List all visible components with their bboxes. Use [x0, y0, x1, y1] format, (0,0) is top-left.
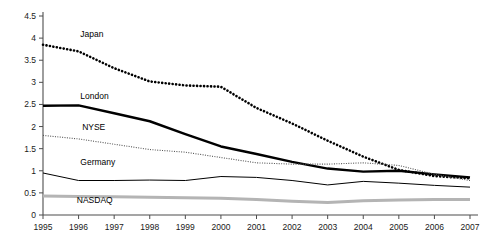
line-chart: 00.511.522.533.544.5 1995199619971998199…: [0, 0, 486, 246]
series-label-london: London: [80, 91, 109, 101]
x-tick-label: 1996: [69, 222, 88, 232]
x-tick-label: 2002: [283, 222, 302, 232]
x-tick-label: 2004: [354, 222, 373, 232]
y-tick-label: 3: [31, 77, 36, 87]
y-tick-label: 1: [31, 166, 36, 176]
series-labels: JapanLondonNYSEGermanyNASDAQ: [77, 29, 116, 205]
y-tick-label: 4.5: [24, 11, 36, 21]
x-tick-label: 2006: [425, 222, 444, 232]
y-axis: 00.511.522.533.544.5: [24, 11, 43, 220]
x-tick-label: 1995: [34, 222, 53, 232]
x-tick-label: 2003: [318, 222, 337, 232]
y-tick-label: 0: [31, 210, 36, 220]
x-tick-label: 1997: [105, 222, 124, 232]
y-tick-label: 0.5: [24, 188, 36, 198]
x-tick-label: 1998: [140, 222, 159, 232]
x-tick-label: 2001: [247, 222, 266, 232]
chart-svg: 00.511.522.533.544.5 1995199619971998199…: [0, 0, 486, 246]
x-tick-label: 1999: [176, 222, 195, 232]
series-label-nyse: NYSE: [82, 122, 105, 132]
chart-figure: 00.511.522.533.544.5 1995199619971998199…: [0, 0, 486, 246]
series-lines: [43, 45, 470, 203]
series-label-nasdaq: NASDAQ: [77, 195, 113, 205]
series-label-japan: Japan: [80, 29, 103, 39]
y-tick-label: 3.5: [24, 55, 36, 65]
series-label-germany: Germany: [80, 157, 116, 167]
y-tick-label: 2: [31, 122, 36, 132]
x-tick-label: 2005: [389, 222, 408, 232]
y-tick-label: 4: [31, 33, 36, 43]
series-line-germany: [43, 173, 470, 187]
y-tick-label: 1.5: [24, 144, 36, 154]
x-tick-label: 2007: [461, 222, 480, 232]
x-axis: 1995199619971998199920002001200220032004…: [34, 215, 480, 232]
x-tick-label: 2000: [211, 222, 230, 232]
y-tick-label: 2.5: [24, 99, 36, 109]
